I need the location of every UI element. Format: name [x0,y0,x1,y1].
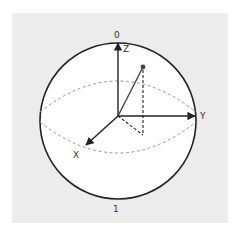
bloch-sphere-diagram: 0 Z Y X 1 [0,0,236,231]
label-state-1: 1 [113,204,119,214]
label-y-axis: Y [199,111,206,121]
label-z-axis: Z [123,44,129,54]
state-point [141,65,146,70]
label-state-0: 0 [114,30,120,40]
label-x-axis: X [73,150,79,160]
